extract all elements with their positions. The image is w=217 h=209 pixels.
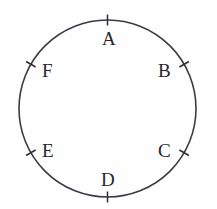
tick-mark-e — [26, 150, 36, 156]
point-label-e: E — [42, 141, 54, 160]
point-label-c: C — [158, 141, 171, 160]
point-label-a: A — [102, 29, 116, 48]
point-label-b: B — [158, 61, 171, 80]
point-label-d: D — [101, 170, 115, 189]
point-label-f: F — [42, 61, 53, 80]
tick-mark-c — [179, 150, 189, 156]
circle-diagram: ABCDEF — [0, 0, 217, 209]
tick-mark-f — [26, 62, 36, 68]
tick-mark-b — [179, 62, 189, 68]
